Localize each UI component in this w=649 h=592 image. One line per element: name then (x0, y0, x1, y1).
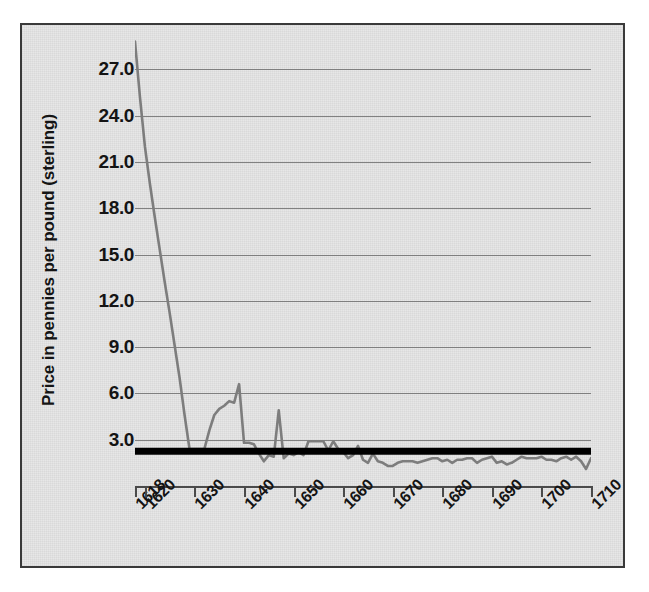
y-axis-tick-label: 12.0 (72, 290, 134, 312)
y-axis-tick-label: 6.0 (72, 382, 134, 404)
plot-area (135, 40, 591, 486)
data-series-svg (135, 40, 591, 486)
y-axis-tick-label: 18.0 (72, 197, 134, 219)
price-line-series (135, 42, 591, 469)
y-axis-tick-label: 3.0 (72, 429, 134, 451)
y-axis-tick-label: 21.0 (72, 151, 134, 173)
chart-figure: Price in pennies per pound (sterling) 27… (0, 0, 649, 592)
y-axis-tick-labels: 27.024.021.018.015.012.09.06.03.0 (68, 0, 134, 592)
y-axis-tick-label: 15.0 (72, 244, 134, 266)
y-axis-tick-label: 9.0 (72, 336, 134, 358)
y-axis-title: Price in pennies per pound (sterling) (36, 40, 62, 480)
y-axis-tick-label: 24.0 (72, 105, 134, 127)
y-axis-tick-label: 27.0 (72, 58, 134, 80)
